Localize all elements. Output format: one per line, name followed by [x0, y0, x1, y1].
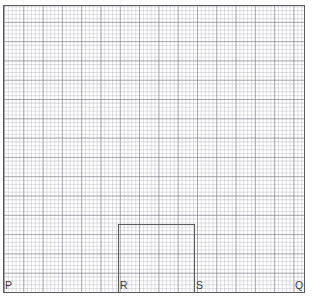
- vertex-label-r: R: [120, 280, 128, 291]
- vertex-label-q: Q: [295, 280, 303, 291]
- geometry-figure: P R S Q: [0, 0, 312, 302]
- vertex-label-s: S: [196, 280, 203, 291]
- inner-rectangle-rs: [118, 224, 195, 293]
- vertex-label-p: P: [5, 280, 12, 291]
